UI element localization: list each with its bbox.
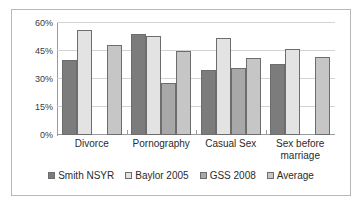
bar-slot [62,23,77,135]
bar[interactable] [161,83,176,135]
bar-slot [107,23,122,135]
x-axis-category-label: Casual Sex [196,138,266,150]
y-axis-tick-label: 30% [13,74,53,84]
y-axis-tick-label: 0% [13,130,53,140]
x-axis-category-label: Pornography [127,138,197,150]
bar-slot [216,23,231,135]
bar[interactable] [107,45,122,135]
bar[interactable] [131,34,146,135]
bar-slot [131,23,146,135]
legend-item[interactable]: Baylor 2005 [125,170,188,181]
bar[interactable] [285,49,300,135]
bar-slot [77,23,92,135]
chart-container: 0%15%30%45%60% DivorcePornographyCasual … [11,9,351,196]
bar-slot [146,23,161,135]
legend-swatch-icon [125,172,132,179]
axis-tick [127,130,128,135]
axis-tick [266,130,267,135]
bar[interactable] [216,38,231,135]
x-axis-labels: DivorcePornographyCasual SexSex before m… [57,138,335,172]
bar-slot [315,23,330,135]
chart-legend: Smith NSYRBaylor 2005GSS 2008Average [12,170,350,181]
y-axis-tick-label: 60% [13,18,53,28]
legend-item[interactable]: Average [267,170,314,181]
legend-label: GSS 2008 [210,170,256,181]
bar[interactable] [201,70,216,135]
bar-group [196,23,266,135]
bar-slot [246,23,261,135]
axis-tick [196,130,197,135]
legend-item[interactable]: Smith NSYR [48,170,114,181]
bar[interactable] [77,30,92,135]
bar-slot [92,23,107,135]
bar-slot [176,23,191,135]
x-axis-category-label: Divorce [57,138,127,150]
bar[interactable] [231,68,246,135]
y-axis-tick-label: 45% [13,46,53,56]
bar-slot [300,23,315,135]
bar[interactable] [270,64,285,135]
bar-group [57,23,127,135]
bar[interactable] [246,58,261,135]
bar[interactable] [315,57,330,135]
bar-slot [270,23,285,135]
bar-slot [161,23,176,135]
bar[interactable] [176,51,191,135]
bar[interactable] [62,60,77,135]
legend-swatch-icon [267,172,274,179]
x-axis-category-label: Sex before marriage [266,138,336,162]
bar-slot [285,23,300,135]
y-axis-tick-label: 15% [13,102,53,112]
bar[interactable] [146,36,161,135]
y-axis-labels: 0%15%30%45%60% [12,23,53,135]
legend-label: Smith NSYR [58,170,114,181]
bar-slot [201,23,216,135]
bar-slot [231,23,246,135]
legend-label: Average [277,170,314,181]
legend-swatch-icon [200,172,207,179]
legend-swatch-icon [48,172,55,179]
plot-area [57,23,335,135]
legend-label: Baylor 2005 [135,170,188,181]
bar-group [127,23,197,135]
legend-item[interactable]: GSS 2008 [200,170,256,181]
bar-group [266,23,336,135]
